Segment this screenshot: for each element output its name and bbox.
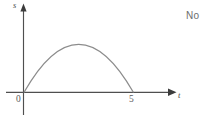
corner-note-text: No bbox=[186, 11, 199, 21]
figure-container: s t 0 5 No bbox=[0, 0, 206, 119]
y-axis-label: s bbox=[13, 1, 16, 10]
x-tick-label-5: 5 bbox=[129, 95, 134, 105]
y-axis-arrowhead bbox=[20, 4, 26, 12]
parabola-plot bbox=[0, 0, 206, 119]
x-axis-label: t bbox=[178, 91, 180, 100]
parabola-curve bbox=[24, 44, 133, 92]
x-axis-arrowhead bbox=[168, 89, 177, 96]
origin-tick-label: 0 bbox=[16, 95, 21, 105]
